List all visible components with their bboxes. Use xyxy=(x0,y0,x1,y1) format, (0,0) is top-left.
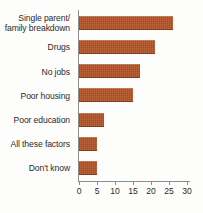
bar-row xyxy=(79,133,187,157)
category-axis-labels: Single parent/ family breakdown Drugs No… xyxy=(0,12,74,181)
category-label: Don't know xyxy=(0,157,74,181)
category-label: Poor education xyxy=(0,109,74,133)
horizontal-bar-chart: Single parent/ family breakdown Drugs No… xyxy=(0,0,203,213)
bar xyxy=(79,161,97,175)
bar xyxy=(79,16,173,30)
x-axis-tick-label: 10 xyxy=(110,186,119,196)
category-label-line: Poor housing xyxy=(21,92,70,102)
bar xyxy=(79,40,155,54)
x-axis-tick-label: 25 xyxy=(164,186,173,196)
bar-row xyxy=(79,60,187,84)
bar-row xyxy=(79,36,187,60)
category-label-line: No jobs xyxy=(42,68,70,78)
x-axis-tick xyxy=(169,181,170,185)
category-label-line: Don't know xyxy=(29,164,70,174)
plot-area xyxy=(79,12,187,181)
bar xyxy=(79,113,104,127)
category-label-line: Drugs xyxy=(48,43,70,53)
x-axis-tick xyxy=(187,181,188,185)
category-label-line: family breakdown xyxy=(5,24,70,34)
bar-series xyxy=(79,12,187,181)
x-axis-tick-label: 30 xyxy=(182,186,191,196)
x-axis-tick xyxy=(97,181,98,185)
x-axis-tick-label: 15 xyxy=(128,186,137,196)
x-axis-tick-labels: 051015202530 xyxy=(0,186,203,200)
bar xyxy=(79,88,133,102)
x-axis-tick xyxy=(115,181,116,185)
category-label-line: Poor education xyxy=(14,116,70,126)
x-axis-tick-label: 20 xyxy=(146,186,155,196)
category-label: Poor housing xyxy=(0,84,74,108)
category-label-line: All these factors xyxy=(11,140,70,150)
x-axis-tick xyxy=(79,181,80,185)
x-axis-tick xyxy=(133,181,134,185)
x-axis-tick-label: 0 xyxy=(77,186,82,196)
bar-row xyxy=(79,157,187,181)
bar xyxy=(79,64,140,78)
category-label: All these factors xyxy=(0,133,74,157)
category-label: Single parent/ family breakdown xyxy=(0,12,74,36)
x-axis-tick-label: 5 xyxy=(95,186,100,196)
bar-row xyxy=(79,109,187,133)
category-label: Drugs xyxy=(0,36,74,60)
bar xyxy=(79,137,97,151)
bar-row xyxy=(79,84,187,108)
category-label: No jobs xyxy=(0,60,74,84)
bar-row xyxy=(79,12,187,36)
x-axis-tick xyxy=(151,181,152,185)
